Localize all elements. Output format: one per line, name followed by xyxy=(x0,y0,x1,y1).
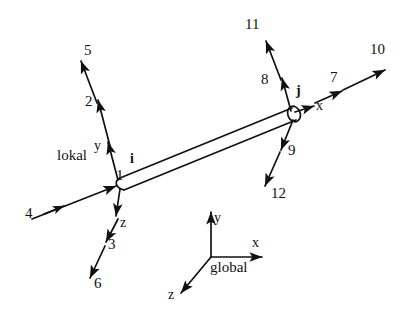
dof-label-8: 8 xyxy=(261,72,269,87)
beam-dof-diagram: 1 2 3 4 5 6 7 8 9 10 11 12 i j lokal y z… xyxy=(0,0,406,318)
local-x-axis-label: x xyxy=(316,99,323,113)
dof-label-11: 11 xyxy=(245,17,259,32)
global-system-label: global xyxy=(210,260,248,275)
arrow-dof-7-10 xyxy=(295,70,385,112)
dof-label-12: 12 xyxy=(271,186,286,201)
dof-label-5: 5 xyxy=(84,43,92,58)
node-label-j: j xyxy=(296,84,301,98)
local-z-axis-label: z xyxy=(120,216,126,230)
dof-4-head xyxy=(44,206,64,214)
dof-12-shaft xyxy=(265,152,280,186)
arrow-dof-8-11 xyxy=(266,41,291,111)
beam-element xyxy=(116,104,302,190)
arrow-dof-1-4 xyxy=(32,186,116,219)
local-system-label: lokal xyxy=(57,148,87,163)
dof-label-9: 9 xyxy=(288,143,296,158)
dof-label-10: 10 xyxy=(370,42,385,57)
global-z-axis xyxy=(181,257,211,293)
dof-label-7: 7 xyxy=(330,70,338,85)
local-y-axis-label: y xyxy=(94,139,101,153)
global-axes-triad xyxy=(181,212,262,293)
dof-label-1: 1 xyxy=(116,168,124,183)
node-label-i: i xyxy=(130,152,134,166)
beam-bottom-edge xyxy=(124,120,296,190)
global-y-axis-label: y xyxy=(214,211,221,225)
beam-top-edge xyxy=(120,108,292,178)
dof-6-shaft xyxy=(90,246,105,278)
global-x-axis-label: x xyxy=(252,236,259,250)
global-z-axis-label: z xyxy=(168,288,174,302)
dof-label-2: 2 xyxy=(85,94,93,109)
beam-cap-j xyxy=(285,104,302,123)
dof-8-shaft xyxy=(282,78,291,111)
dof-label-3: 3 xyxy=(108,237,116,252)
arrow-dof-3-6 xyxy=(90,189,120,278)
dof-label-6: 6 xyxy=(94,276,102,291)
dof-label-4: 4 xyxy=(25,206,33,221)
local-z-shaft xyxy=(116,189,120,216)
dof-10-shaft xyxy=(343,70,385,90)
